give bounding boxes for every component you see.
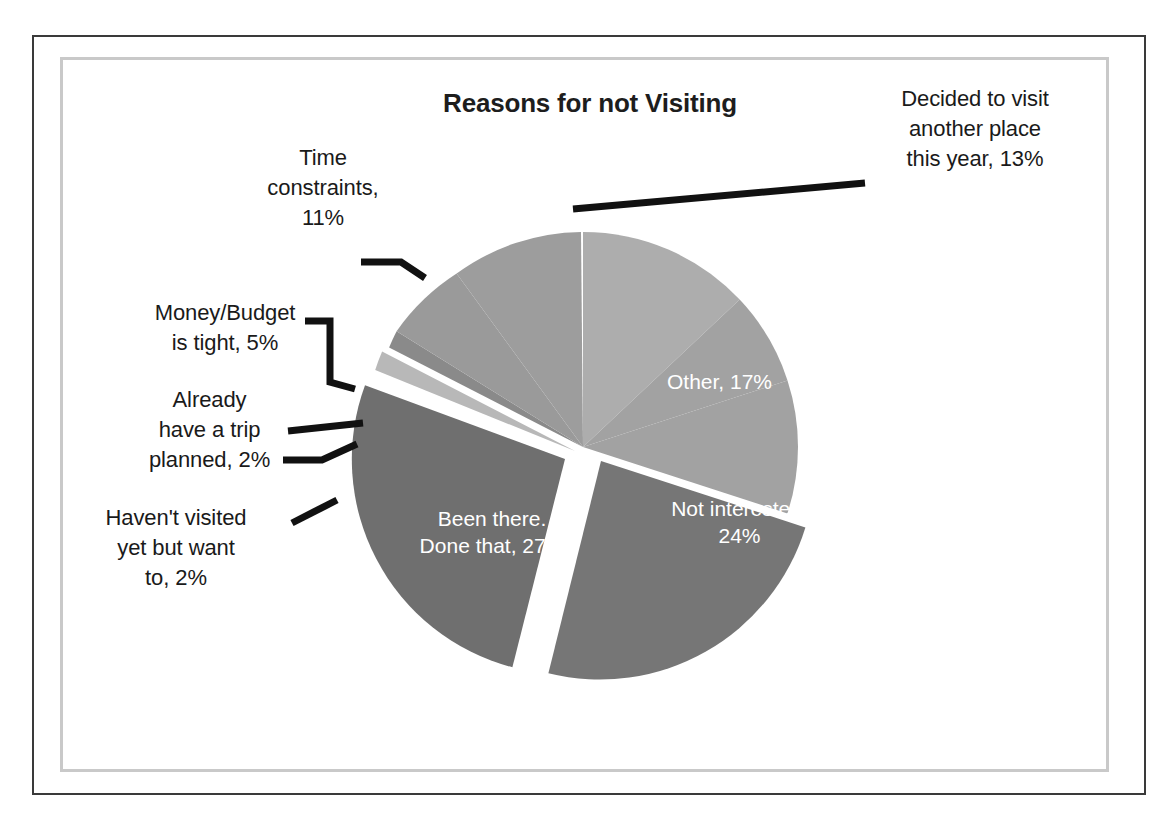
leader-line-time-constraints	[361, 262, 425, 278]
leader-line-already-trip-planned	[288, 423, 363, 431]
label-havent-visited: Haven't visited yet but want to, 2%	[76, 503, 276, 593]
label-already-trip-planned: Already have a trip planned, 2%	[122, 385, 297, 475]
leader-line-decided-another-place	[573, 183, 865, 209]
leader-line-havent-visited-2	[292, 500, 337, 523]
label-time-constraints: Time constraints, 11%	[243, 143, 403, 233]
slice-label-other: Other, 17%	[612, 368, 827, 395]
slice-label-been-there: Been there. Done that, 27%	[377, 505, 607, 559]
label-decided-another-place: Decided to visit another place this year…	[855, 84, 1095, 174]
slice-label-not-interested: Not interested, 24%	[632, 495, 847, 549]
chart-canvas: Reasons for not Visiting Other, 17% Not …	[0, 0, 1170, 817]
label-money-budget: Money/Budget is tight, 5%	[130, 298, 320, 358]
